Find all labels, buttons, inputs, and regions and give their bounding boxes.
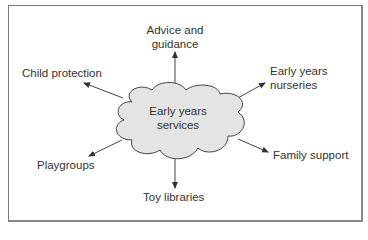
node-family-support: Family support (273, 148, 348, 162)
arrow-nurseries (236, 83, 265, 99)
node-advice: Advice and guidance (138, 23, 212, 51)
center-label: Early years services (148, 104, 208, 132)
node-toy-libraries: Toy libraries (143, 190, 204, 204)
node-family-support-label: Family support (273, 148, 348, 162)
node-nurseries-line2: nurseries (270, 78, 328, 92)
node-toy-libraries-label: Toy libraries (143, 190, 204, 204)
center-label-line2: services (148, 118, 208, 132)
node-child-protection: Child protection (22, 66, 102, 80)
node-child-protection-label: Child protection (22, 66, 102, 80)
node-nurseries: Early years nurseries (270, 64, 328, 92)
node-advice-line1: Advice and (138, 23, 212, 37)
center-label-line1: Early years (148, 104, 208, 118)
arrow-child-protection (84, 83, 123, 98)
node-nurseries-line1: Early years (270, 64, 328, 78)
arrow-family-support (238, 139, 268, 152)
node-playgroups: Playgroups (37, 158, 95, 172)
arrow-playgroups (89, 140, 122, 156)
node-playgroups-label: Playgroups (37, 158, 95, 172)
node-advice-line2: guidance (138, 37, 212, 51)
